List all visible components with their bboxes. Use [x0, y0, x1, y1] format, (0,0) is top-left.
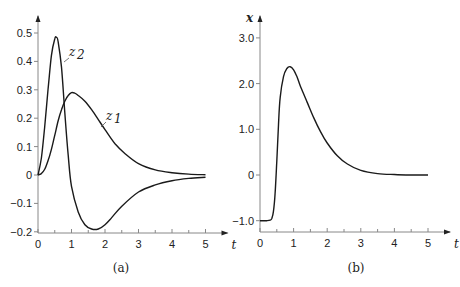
- x-tick-label: 1: [291, 237, 297, 249]
- chart-b: 0123453.02.01.00−1.0tx(b): [232, 11, 459, 275]
- x-tick-label: 3: [135, 238, 141, 250]
- series-label-z1: z: [105, 109, 113, 123]
- chart-a: 0123450.50.40.30.20.10−0.1−0.2t(a)z2z1: [10, 15, 236, 275]
- x-axis-label: t: [454, 237, 459, 251]
- x-axis-label: t: [232, 238, 237, 252]
- series-line-z2: [38, 37, 206, 230]
- x-tick-label: 0: [35, 238, 41, 250]
- y-tick-label: −0.1: [10, 197, 32, 209]
- x-tick-label: 2: [102, 238, 108, 250]
- y-tick-label: 0.2: [17, 112, 32, 124]
- x-tick-label: 4: [391, 237, 397, 249]
- svg-text:2: 2: [76, 48, 85, 62]
- y-tick-label: 2.0: [239, 78, 254, 90]
- y-tick-label: 0: [26, 169, 32, 181]
- y-tick-label: 0.5: [17, 27, 32, 39]
- x-axis-arrow-icon: [444, 230, 451, 235]
- x-tick-label: 2: [324, 237, 330, 249]
- y-axis-arrow-icon: [36, 15, 41, 22]
- panel-caption: (a): [113, 261, 130, 275]
- y-axis-label: x: [245, 11, 254, 25]
- svg-text:1: 1: [114, 112, 122, 126]
- y-tick-label: 0: [248, 169, 254, 181]
- x-tick-label: 5: [202, 238, 208, 250]
- y-tick-label: −0.2: [10, 226, 32, 238]
- x-tick-label: 3: [358, 237, 364, 249]
- y-tick-label: −1.0: [232, 215, 254, 227]
- panel-caption: (b): [347, 261, 364, 275]
- figure: 0123450.50.40.30.20.10−0.1−0.2t(a)z2z1 0…: [0, 0, 460, 287]
- y-tick-label: 1.0: [239, 123, 254, 135]
- y-tick-label: 3.0: [239, 32, 254, 44]
- x-axis-arrow-icon: [222, 231, 229, 236]
- series-line-x: [260, 67, 428, 221]
- y-tick-label: 0.4: [17, 55, 32, 67]
- series-line-z1: [38, 92, 206, 175]
- x-tick-label: 1: [68, 238, 74, 250]
- y-axis-arrow-icon: [258, 15, 263, 22]
- x-tick-label: 5: [425, 237, 431, 249]
- series-label-z2: z: [68, 45, 76, 59]
- x-tick-label: 0: [257, 237, 263, 249]
- y-tick-label: 0.3: [17, 84, 32, 96]
- x-tick-label: 4: [169, 238, 175, 250]
- y-tick-label: 0.1: [17, 141, 32, 153]
